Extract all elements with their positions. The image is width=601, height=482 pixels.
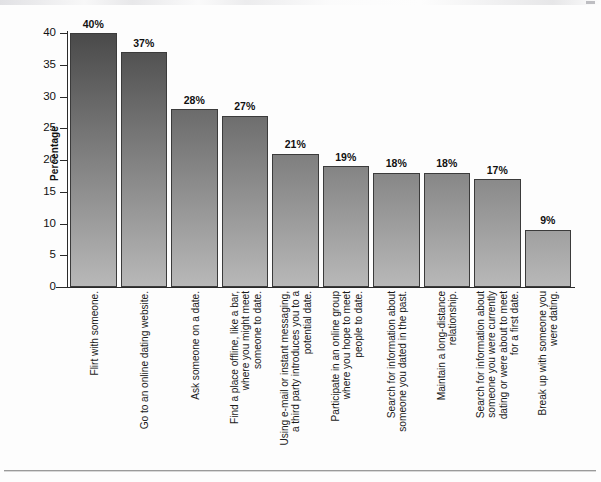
y-axis-tick <box>60 255 67 256</box>
x-axis-line <box>56 287 575 288</box>
bar-value-label: 27% <box>234 101 255 112</box>
bar <box>272 154 319 287</box>
figure-bar-chart: Percentage 0510152025303540 40%37%28%27%… <box>0 0 601 482</box>
bar-value-label: 9% <box>540 215 555 226</box>
bar <box>121 52 168 287</box>
bar <box>70 33 117 287</box>
bar <box>373 173 420 287</box>
bar-value-label: 18% <box>386 158 407 169</box>
bar-value-label: 19% <box>335 152 356 163</box>
x-axis-category-label: Flirt with someone. <box>89 291 100 455</box>
bar <box>474 179 521 287</box>
y-axis-tick <box>60 128 67 129</box>
x-axis-category-label: Find a place offline, like a bar, where … <box>229 291 263 455</box>
x-axis-category-label: Search for information about someone you… <box>475 291 521 455</box>
x-axis-category-label: Search for information about someone you… <box>386 291 409 455</box>
bar-value-label: 28% <box>184 95 205 106</box>
x-axis-category-label: Go to an online dating website. <box>139 291 150 455</box>
y-axis-tick <box>60 192 67 193</box>
bar-value-label: 21% <box>285 139 306 150</box>
x-axis-category-label: Break up with someone you were dating. <box>537 291 560 455</box>
bar <box>222 116 269 287</box>
bar <box>171 109 218 287</box>
bar-value-label: 37% <box>133 38 154 49</box>
y-axis-tick-label: 5 <box>16 249 56 261</box>
scan-artifact-mark <box>586 1 595 4</box>
x-axis-category-label: Ask someone on a date. <box>190 291 201 455</box>
bar-value-label: 17% <box>487 165 508 176</box>
x-axis-category-label: Participate in an online group where you… <box>330 291 364 455</box>
y-axis-tick <box>60 65 67 66</box>
y-axis-tick-label: 0 <box>16 281 56 293</box>
y-axis-tick-labels: 0510152025303540 <box>12 0 56 482</box>
y-axis-tick <box>60 224 67 225</box>
y-axis-tick-label: 40 <box>16 27 56 39</box>
bar-value-label: 40% <box>83 19 104 30</box>
y-axis-tick-label: 15 <box>16 186 56 198</box>
bar <box>525 230 572 287</box>
y-axis-tick-label: 10 <box>16 218 56 230</box>
y-axis-tick-label: 20 <box>16 154 56 166</box>
bar <box>424 173 471 287</box>
footer-rule-shadow <box>4 471 596 472</box>
x-axis-category-label: Maintain a long-distance relationship. <box>436 291 459 455</box>
y-axis-tick <box>60 97 67 98</box>
plot-area: 40%37%28%27%21%19%18%18%17%9% <box>68 33 573 287</box>
scan-artifact-top <box>0 0 601 5</box>
y-axis-tick-label: 35 <box>16 59 56 71</box>
y-axis-tick <box>60 160 67 161</box>
y-axis-tick <box>60 287 67 288</box>
y-axis-tick-label: 25 <box>16 122 56 134</box>
x-axis-category-label: Using e-mail or instant messaging, a thi… <box>279 291 313 455</box>
y-axis-tick-label: 30 <box>16 91 56 103</box>
bar-value-label: 18% <box>436 158 457 169</box>
y-axis-tick <box>60 33 67 34</box>
bar <box>323 166 370 287</box>
